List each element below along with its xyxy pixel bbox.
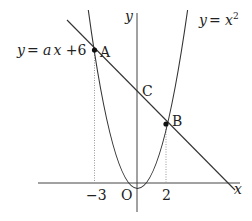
tick-neg3: −3 <box>86 187 107 203</box>
line-curve <box>67 20 235 190</box>
point-a-dot <box>92 47 97 52</box>
y-axis-label: y <box>124 8 134 24</box>
tick-2: 2 <box>162 187 171 203</box>
point-b-label: B <box>172 113 182 129</box>
diagram-canvas: A B C y x O −3 2 y= x2 y= ax +6 <box>0 0 252 221</box>
point-c-label: C <box>142 83 153 99</box>
point-b-dot <box>163 121 168 126</box>
parabola-curve <box>88 10 187 189</box>
x-axis-label: x <box>234 181 242 197</box>
point-a-label: A <box>99 44 111 60</box>
origin-label: O <box>121 187 132 203</box>
line-equation-label: y= ax +6 <box>16 42 87 58</box>
parabola-equation-label: y= x2 <box>198 11 239 28</box>
